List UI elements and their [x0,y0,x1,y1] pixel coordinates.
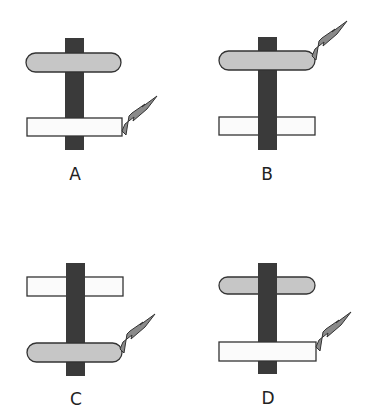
panel-b [219,21,347,150]
lightning-bolt-icon [120,314,155,353]
connector-diagram [0,0,376,420]
lightning-bolt-icon [316,312,351,351]
white-rect-piece [27,118,122,136]
panel-label-a: A [60,165,90,183]
panel-label-b: B [252,165,282,183]
lightning-bolt-icon [122,96,157,135]
panel-d [219,263,351,374]
gray-oval-piece [26,53,121,72]
lightning-bolt-icon [312,21,347,60]
panel-label-c: C [61,390,91,408]
gray-oval-piece [219,51,315,70]
white-rect-piece [219,342,316,361]
panel-c [27,263,155,376]
panel-a [26,38,157,150]
panel-label-d: D [253,389,283,407]
gray-oval-piece [27,343,122,362]
